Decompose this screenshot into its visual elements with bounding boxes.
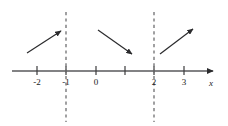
arrow-left-increasing <box>27 31 61 53</box>
number-line-figure: -2-1023 x <box>0 0 228 126</box>
tick-label: 3 <box>172 78 196 87</box>
tick-label: -1 <box>54 78 78 87</box>
x-axis-label: x <box>209 79 213 88</box>
dashed-boundary-group <box>66 12 154 122</box>
arrow-right-increasing <box>160 29 193 54</box>
arrow-middle-decreasing <box>98 30 132 54</box>
tick-label: 0 <box>84 78 108 87</box>
figure-canvas <box>0 0 228 126</box>
tick-label: -2 <box>25 78 49 87</box>
tick-label: 2 <box>142 78 166 87</box>
slope-arrow-group <box>27 29 193 54</box>
